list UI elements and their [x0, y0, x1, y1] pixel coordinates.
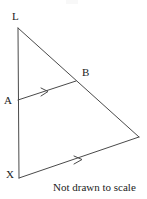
- vertex-label-L: L: [12, 11, 19, 22]
- vertex-label-X: X: [6, 169, 14, 180]
- vertex-label-A: A: [4, 95, 12, 106]
- segment-XC: [19, 137, 139, 178]
- segment-LC: [18, 28, 139, 137]
- triangle-figure: [0, 0, 147, 199]
- triangle-outline: [18, 28, 139, 178]
- not-drawn-to-scale-caption: Not drawn to scale: [53, 181, 136, 194]
- geometry-diagram: L A X B Not drawn to scale: [0, 0, 147, 199]
- vertex-label-B: B: [82, 67, 89, 78]
- segment-LX: [18, 28, 19, 178]
